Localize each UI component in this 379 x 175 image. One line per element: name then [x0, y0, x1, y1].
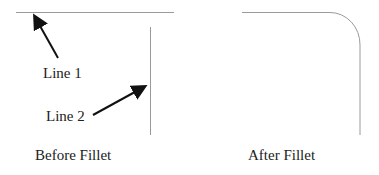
- line-2-label: Line 2: [46, 108, 85, 125]
- arrow-to-line-2: [93, 87, 144, 115]
- before-fillet-caption: Before Fillet: [35, 147, 111, 164]
- arrow-to-line-1: [35, 17, 58, 58]
- filleted-corner: [242, 13, 360, 136]
- after-fillet-geometry: [242, 13, 360, 136]
- before-fillet-geometry: [16, 13, 174, 136]
- after-fillet-caption: After Fillet: [248, 147, 315, 164]
- line-1-label: Line 1: [43, 65, 82, 82]
